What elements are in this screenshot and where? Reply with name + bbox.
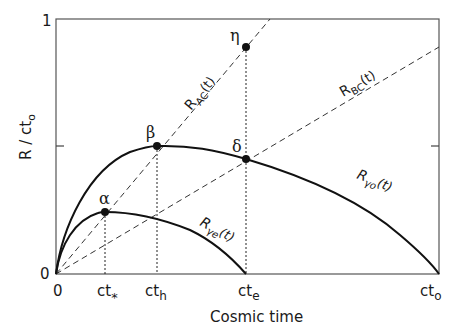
y-tick-1: 1 <box>42 12 52 30</box>
point-delta <box>242 155 250 163</box>
svg-text:RBC(t): RBC(t) <box>337 66 380 102</box>
label-r-bc: RBC(t) <box>337 66 380 102</box>
label-beta: β <box>146 123 155 142</box>
plot-frame <box>56 19 439 274</box>
label-alpha: α <box>99 189 110 208</box>
point-beta <box>153 142 161 150</box>
label-eta: η <box>230 26 240 45</box>
label-r-ac: RAC(t) <box>181 73 220 115</box>
svg-text:R / cto: R / cto <box>17 114 38 160</box>
x-tick-ct-h: cth <box>145 282 167 303</box>
svg-text:Rγo(t): Rγo(t) <box>354 166 395 197</box>
curve-r-gamma-o <box>56 146 439 274</box>
y-tick-0: 0 <box>40 265 50 283</box>
x-tick-ct-o: cto <box>420 282 441 303</box>
label-delta: δ <box>232 137 242 156</box>
y-axis-label: R / cto <box>17 114 38 160</box>
x-tick-ct-e: cte <box>238 282 260 303</box>
label-r-gamma-e: Rγe(t) <box>196 214 238 248</box>
label-r-gamma-o: Rγo(t) <box>354 166 395 197</box>
point-alpha <box>101 208 109 216</box>
svg-text:RAC(t): RAC(t) <box>181 73 220 115</box>
point-eta <box>242 43 250 51</box>
curve-r-gamma-e <box>56 212 246 274</box>
x-axis-label: Cosmic time <box>210 308 303 326</box>
x-tick-0: 0 <box>53 282 63 300</box>
svg-text:Rγe(t): Rγe(t) <box>196 214 238 248</box>
cosmic-time-diagram: α β δ η RAC(t) RBC(t) Rγo(t) Rγe(t) 1 0 … <box>0 0 462 336</box>
x-tick-ct-star: ct* <box>97 282 118 305</box>
